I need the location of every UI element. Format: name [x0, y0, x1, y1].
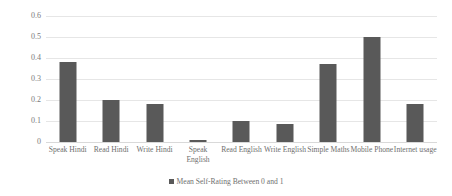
y-tick-label: 0.6	[5, 12, 41, 20]
x-tick-label: Simple Maths	[307, 145, 350, 155]
bar[interactable]	[363, 37, 380, 142]
bar[interactable]	[320, 64, 337, 142]
legend-swatch-icon	[169, 179, 174, 184]
bar[interactable]	[59, 62, 76, 142]
x-tick-label: Write English	[263, 145, 306, 155]
x-tick-label: Read Hindi	[89, 145, 132, 155]
x-tick-label: Speak Hindi	[46, 145, 89, 155]
bar-slot	[220, 16, 263, 142]
bar-slot	[46, 16, 89, 142]
x-tick-label: Internet usage	[394, 145, 437, 155]
bar-slot	[350, 16, 393, 142]
bar-chart: 0.6 0.5 0.4 0.3 0.2 0.1 0 Speak HindiRea…	[0, 0, 452, 196]
bar[interactable]	[276, 124, 293, 142]
bar[interactable]	[190, 140, 207, 142]
gridline-0	[46, 142, 437, 143]
bar-slot	[133, 16, 176, 142]
x-tick-label: Mobile Phone	[350, 145, 393, 155]
bar[interactable]	[233, 121, 250, 142]
y-tick-label: 0	[5, 138, 41, 146]
x-tick-label: Read English	[220, 145, 263, 155]
y-tick-label: 0.1	[5, 117, 41, 125]
x-tick-label: Speak English	[176, 145, 219, 165]
bar[interactable]	[407, 104, 424, 142]
bar-slot	[176, 16, 219, 142]
y-tick-label: 0.5	[5, 33, 41, 41]
y-tick-label: 0.3	[5, 75, 41, 83]
bar[interactable]	[103, 100, 120, 142]
x-tick-label: Write Hindi	[133, 145, 176, 155]
bar-slot	[263, 16, 306, 142]
legend-label: Mean Self-Rating Between 0 and 1	[177, 178, 284, 186]
bar-slot	[394, 16, 437, 142]
bars-layer	[46, 16, 437, 142]
y-tick-label: 0.2	[5, 96, 41, 104]
bar[interactable]	[146, 104, 163, 142]
legend: Mean Self-Rating Between 0 and 1	[0, 178, 452, 186]
bar-slot	[307, 16, 350, 142]
bar-slot	[89, 16, 132, 142]
x-axis-labels: Speak HindiRead HindiWrite HindiSpeak En…	[46, 145, 437, 177]
y-tick-label: 0.4	[5, 54, 41, 62]
